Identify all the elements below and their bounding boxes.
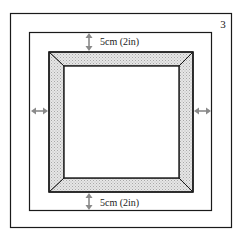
step-number: 3 <box>220 18 226 30</box>
mounting-diagram: 3 5cm (2in) 5cm (2in) <box>0 0 243 236</box>
top-measurement-label: 5cm (2in) <box>100 36 139 48</box>
right-dimension-arrow <box>194 108 211 115</box>
bottom-dimension-arrow <box>86 193 93 210</box>
bottom-measurement-label: 5cm (2in) <box>100 197 139 209</box>
left-dimension-arrow <box>31 108 48 115</box>
inner-window <box>64 66 179 178</box>
frame-top <box>49 52 193 66</box>
frame-bottom <box>49 178 193 192</box>
frame-right <box>179 52 193 192</box>
frame-left <box>49 52 64 192</box>
top-dimension-arrow <box>86 33 93 51</box>
